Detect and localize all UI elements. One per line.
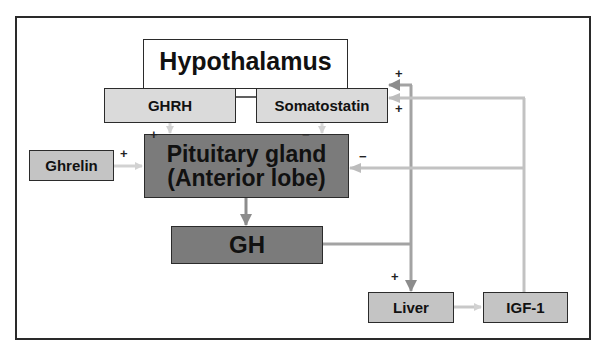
- gh-box: GH: [171, 226, 323, 264]
- sign-igf1-somatostatin-plus: +: [395, 102, 403, 115]
- ghrelin-box: Ghrelin: [29, 150, 114, 181]
- ghrh-label: GHRH: [148, 98, 192, 114]
- hypothalamus-label: Hypothalamus: [159, 48, 331, 74]
- liver-box: Liver: [368, 292, 454, 323]
- gh-label: GH: [229, 232, 265, 257]
- hypothalamus-box: Hypothalamus: [143, 39, 348, 89]
- sign-somatostatin-minus: −: [302, 128, 310, 141]
- sign-ghrh-plus: +: [150, 128, 158, 141]
- sign-gh-liver-plus: +: [391, 270, 399, 283]
- ghrh-box: GHRH: [104, 88, 236, 123]
- igf1-label: IGF-1: [506, 300, 544, 316]
- somatostatin-label: Somatostatin: [274, 98, 369, 114]
- liver-label: Liver: [393, 300, 429, 316]
- sign-ghrelin-plus: +: [120, 147, 128, 160]
- sign-gh-somatostatin-plus: +: [395, 67, 403, 80]
- igf1-box: IGF-1: [483, 292, 568, 323]
- ghrelin-label: Ghrelin: [45, 158, 98, 174]
- sign-igf1-pituitary-minus: −: [359, 150, 367, 163]
- pituitary-label-line1: Pituitary gland: [167, 142, 327, 166]
- somatostatin-box: Somatostatin: [256, 88, 388, 123]
- pituitary-box: Pituitary gland (Anterior lobe): [144, 134, 349, 198]
- pituitary-label-line2: (Anterior lobe): [167, 166, 325, 190]
